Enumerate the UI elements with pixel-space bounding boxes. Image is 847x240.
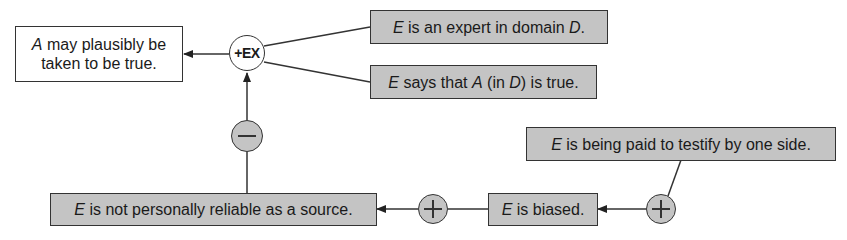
biased-text: E is biased.	[502, 200, 585, 219]
not-reliable-box: E is not personally reliable as a source…	[50, 193, 377, 226]
paid-box: E is being paid to testify by one side.	[526, 127, 836, 161]
not-reliable-text: E is not personally reliable as a source…	[74, 200, 352, 219]
expert-opinion-scheme-node: +EX	[229, 35, 265, 71]
premise-says-text: E says that A (in D) is true.	[388, 73, 578, 92]
plus-icon	[424, 200, 442, 218]
plus-support-node-2	[646, 194, 676, 224]
premise-expert-box: E is an expert in domain D.	[370, 10, 608, 44]
minus-icon	[238, 127, 256, 145]
conclusion-var-a: A	[32, 36, 43, 53]
biased-box: E is biased.	[488, 193, 598, 226]
conclusion-box: A may plausibly be taken to be true.	[15, 26, 183, 82]
plus-support-node-1	[418, 194, 448, 224]
edge-paid-to-plus2	[668, 160, 681, 196]
premise-expert-text: E is an expert in domain D.	[393, 18, 585, 37]
scheme-label: +EX	[234, 45, 259, 61]
edge-says-to-ex	[264, 62, 370, 82]
minus-attack-node	[231, 120, 263, 152]
edge-expert-to-ex	[264, 27, 370, 46]
paid-text: E is being paid to testify by one side.	[551, 135, 811, 154]
conclusion-line-2: taken to be true.	[41, 54, 157, 73]
conclusion-line-1: A may plausibly be	[32, 35, 166, 54]
premise-says-box: E says that A (in D) is true.	[370, 65, 597, 99]
plus-icon	[652, 200, 670, 218]
